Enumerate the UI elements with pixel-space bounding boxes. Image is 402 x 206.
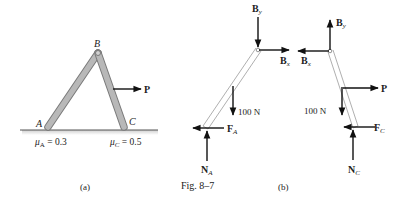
member-ab	[48, 53, 98, 127]
force-p-right-label: P	[381, 83, 387, 94]
force-fa-label: FA	[227, 123, 238, 136]
point-a-label: A	[35, 118, 43, 129]
fbd-member-ab: By Bx 100 N FA NA	[193, 3, 291, 177]
weight-left-label: 100 N	[238, 107, 261, 117]
fbd-bc-edge-1	[328, 52, 353, 128]
point-b-label: B	[94, 38, 100, 49]
force-fc-label: FC	[374, 122, 385, 135]
force-p-label: P	[144, 84, 150, 95]
figure-caption: Fig. 8–7	[181, 180, 214, 191]
force-by-left-label: By	[252, 3, 263, 16]
mu-a-label: μA = 0.3	[34, 137, 67, 149]
fbd-ab-edge-2	[208, 51, 261, 129]
fbd-member-bc: By Bx P 100 N FC NC	[298, 17, 387, 177]
force-bx-left-label: Bx	[280, 55, 291, 68]
ground-shading	[22, 130, 158, 135]
mu-c-label: μC = 0.5	[109, 137, 142, 149]
figure-canvas: P B A C μA = 0.3 μC = 0.5 By Bx 100 N FA	[0, 0, 402, 206]
force-na-label: NA	[201, 164, 213, 177]
panel-a-caption: (a)	[80, 182, 90, 192]
force-by-right-label: By	[336, 17, 347, 30]
point-c-label: C	[129, 116, 136, 127]
member-bc	[98, 53, 124, 127]
force-bx-right-label: Bx	[301, 55, 312, 68]
panel-a: P B A C μA = 0.3 μC = 0.5	[20, 38, 158, 149]
pin-b	[96, 51, 101, 56]
panel-b-caption: (b)	[278, 182, 289, 192]
force-nc-label: NC	[348, 164, 360, 177]
weight-right-label: 100 N	[304, 106, 327, 116]
